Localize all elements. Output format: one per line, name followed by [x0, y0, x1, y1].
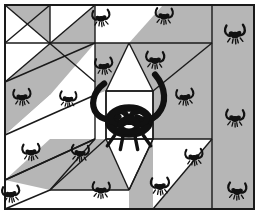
quilt-artwork	[0, 0, 259, 214]
patch-bottom-white-triangle-mid	[50, 190, 129, 209]
quilt-canvas	[0, 0, 259, 214]
